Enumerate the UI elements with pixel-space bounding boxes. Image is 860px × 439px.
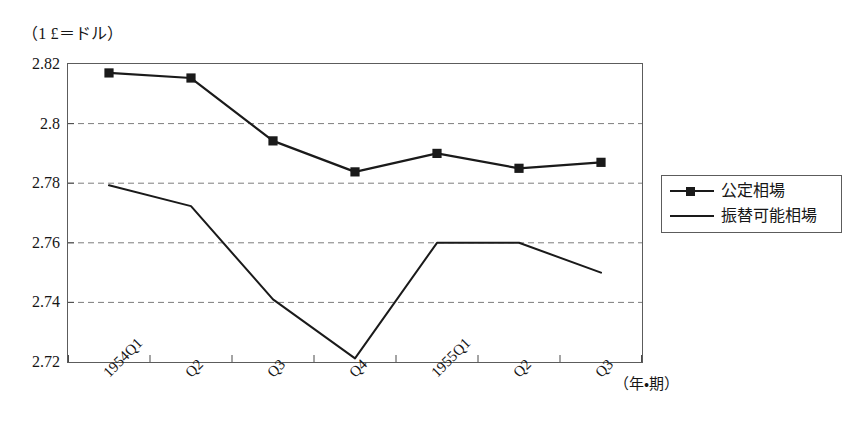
series-line-0: [109, 73, 601, 172]
data-point-marker: [186, 73, 195, 82]
x-axis-tick-marks: [68, 124, 642, 362]
legend-marker-line-square-icon: [670, 184, 714, 198]
y-tick-label: 2.8: [2, 115, 60, 133]
chart-legend: 公定相場 振替可能相場: [661, 175, 842, 233]
legend-label-1: 振替可能相場: [721, 208, 817, 224]
plot-svg: [68, 64, 642, 362]
chart-figure: （1 £＝ドル） 2.722.742.762.782.82.82 1954Q1Q…: [0, 0, 860, 439]
data-point-marker: [104, 68, 113, 77]
y-tick-label: 2.74: [2, 293, 60, 311]
data-point-marker: [514, 164, 523, 173]
y-axis-unit-caption: （1 £＝ドル）: [22, 20, 124, 44]
gridlines: [68, 124, 642, 303]
legend-marker-line-icon: [670, 209, 714, 223]
legend-item-1: 振替可能相場: [670, 204, 817, 228]
legend-item-0: 公定相場: [670, 179, 785, 203]
data-point-marker: [432, 149, 441, 158]
series-line-1: [109, 185, 601, 358]
y-tick-label: 2.82: [2, 55, 60, 73]
y-tick-label: 2.72: [2, 353, 60, 371]
data-series-layer: [104, 68, 605, 358]
y-tick-label: 2.76: [2, 234, 60, 252]
legend-label-0: 公定相場: [721, 183, 785, 199]
y-tick-label: 2.78: [2, 174, 60, 192]
data-point-marker: [596, 158, 605, 167]
x-axis-caption: （年・期）: [614, 372, 679, 393]
plot-area: [67, 63, 643, 363]
data-point-marker: [268, 136, 277, 145]
data-point-marker: [350, 167, 359, 176]
